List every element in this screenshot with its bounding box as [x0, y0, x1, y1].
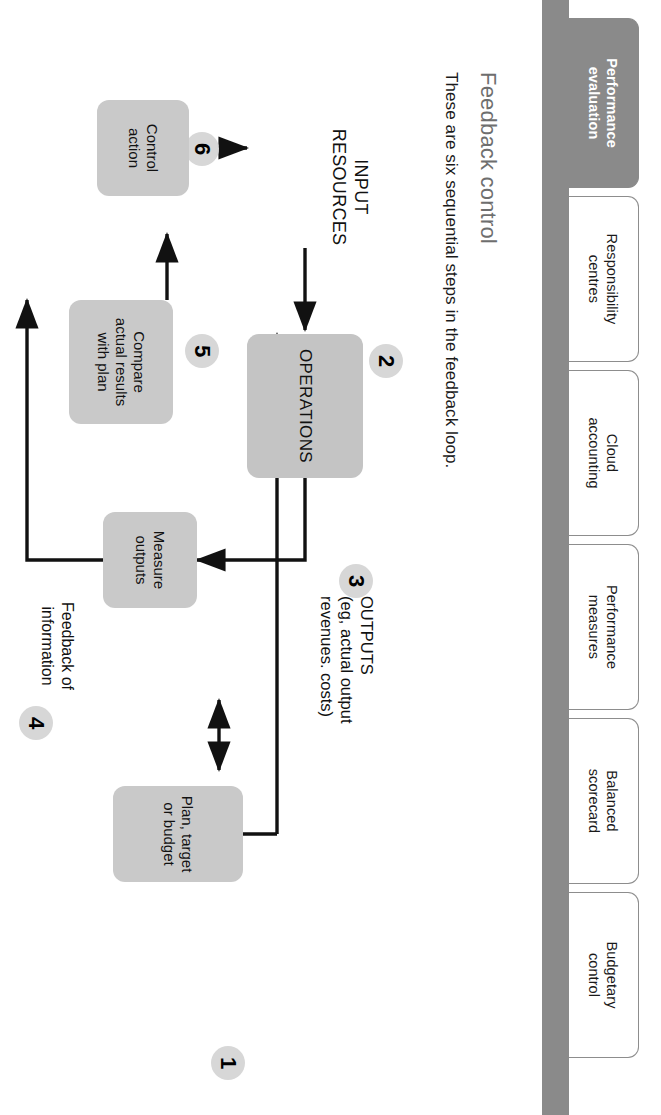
- tab-label-line1: Performance: [604, 585, 620, 669]
- tab-label-line1: Responsibility: [604, 234, 620, 325]
- plan-line2: or budget: [161, 802, 178, 865]
- tab-label-line1: Balanced: [604, 770, 620, 831]
- tab-label-line1: Budgetary: [604, 942, 620, 1009]
- page-title: Feedback control: [475, 72, 501, 244]
- active-tab-foot: [542, 18, 569, 188]
- node-operations-label: OPERATIONS: [295, 349, 315, 463]
- tab-label: Budgetary control: [585, 942, 619, 1009]
- node-plan-target-budget[interactable]: Plan, target or budget: [113, 786, 243, 882]
- step-number-2: 2: [369, 344, 403, 378]
- tab-label-line1: Cloud: [604, 434, 620, 472]
- plan-line1: Plan, target: [179, 796, 196, 873]
- tab-cloud-accounting[interactable]: Cloud accounting: [567, 370, 639, 536]
- measure-line1: Measure: [151, 531, 168, 589]
- tab-label: Performance evaluation: [585, 58, 619, 148]
- tab-label: Performance measures: [585, 585, 619, 669]
- tab-performance-measures[interactable]: Performance measures: [567, 544, 639, 710]
- tab-label-line2: evaluation: [587, 67, 603, 140]
- input-line2: RESOURCES: [329, 129, 349, 246]
- feedback-of-information-label: Feedback of information: [38, 576, 77, 716]
- tab-balanced-scorecard[interactable]: Balanced scorecard: [567, 718, 639, 884]
- node-compare-label: Compare actual results with plan: [94, 318, 148, 406]
- node-operations[interactable]: OPERATIONS: [247, 334, 363, 478]
- compare-line2: actual results: [113, 318, 130, 406]
- node-measure-outputs-label: Measure outputs: [132, 531, 168, 589]
- step-number-5: 5: [185, 334, 219, 368]
- compare-line3: with plan: [95, 332, 112, 391]
- node-measure-outputs[interactable]: Measure outputs: [103, 512, 197, 608]
- node-compare-actual-results[interactable]: Compare actual results with plan: [69, 300, 173, 424]
- control-line1: Control: [144, 124, 161, 172]
- tab-performance-evaluation[interactable]: Performance evaluation: [567, 18, 639, 188]
- node-control-action-label: Control action: [125, 124, 161, 172]
- feedback-line1: Feedback of: [59, 602, 76, 690]
- outputs-label: OUTPUTS (eg, actual output revenues. cos…: [317, 596, 377, 816]
- control-line2: action: [126, 128, 143, 168]
- step-number-6: 6: [185, 132, 219, 166]
- tab-bar: Performance evaluation Responsibility ce…: [521, 0, 661, 1115]
- rotated-page-wrapper: Performance evaluation Responsibility ce…: [0, 0, 661, 1115]
- tab-label-line2: scorecard: [587, 769, 603, 834]
- feedback-line2: information: [39, 606, 56, 685]
- measure-line2: outputs: [133, 535, 150, 584]
- tab-label-line2: measures: [587, 595, 603, 659]
- tab-label-line2: control: [587, 953, 603, 997]
- page-subtitle: These are six sequential steps in the fe…: [441, 72, 461, 468]
- page: Performance evaluation Responsibility ce…: [0, 0, 661, 1115]
- outputs-line3: revenues. costs): [318, 596, 336, 717]
- tab-responsibility-centres[interactable]: Responsibility centres: [567, 196, 639, 362]
- input-resources-label: INPUT RESOURCES: [327, 112, 371, 262]
- input-line1: INPUT: [351, 159, 371, 215]
- tab-label-line2: accounting: [587, 417, 603, 488]
- outputs-line2: (eg, actual output: [338, 596, 356, 724]
- feedback-control-diagram: INPUT RESOURCES 2 OPERATIONS 3 OUTPUTS (…: [0, 0, 425, 1115]
- tab-budgetary-control[interactable]: Budgetary control: [567, 892, 639, 1058]
- step-number-1: 1: [211, 1046, 245, 1080]
- compare-line1: Compare: [131, 331, 148, 393]
- tab-label: Balanced scorecard: [585, 769, 619, 834]
- node-control-action[interactable]: Control action: [97, 100, 189, 196]
- step-number-3: 3: [339, 564, 373, 598]
- outputs-line1: OUTPUTS: [358, 596, 376, 675]
- node-plan-label: Plan, target or budget: [160, 796, 196, 873]
- tab-label: Responsibility centres: [585, 234, 619, 325]
- tab-label-line1: Performance: [604, 58, 620, 148]
- tab-label-line2: centres: [587, 255, 603, 303]
- tab-label: Cloud accounting: [585, 417, 619, 488]
